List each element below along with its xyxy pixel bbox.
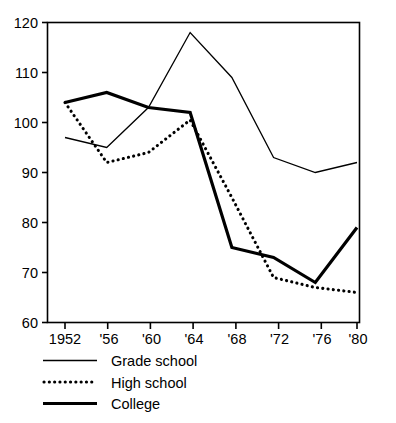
chart-legend: Grade school High school College <box>43 353 197 412</box>
x-tick-label: '56 <box>100 331 119 347</box>
series-line-grade-school <box>65 33 357 173</box>
y-tick-label: 110 <box>15 65 38 81</box>
x-tick-label: 1952 <box>49 331 81 347</box>
x-tick-label: '64 <box>185 331 204 347</box>
x-axis-ticks <box>65 323 357 330</box>
x-axis-tick-labels: 1952 '56 '60 '64 '68 '72 '76 '80 <box>49 331 368 347</box>
y-tick-label: 120 <box>14 15 38 31</box>
line-chart: 120 110 100 90 80 70 60 1952 '56 '60 '64… <box>0 0 396 423</box>
legend-item-college[interactable]: College <box>43 396 160 412</box>
legend-item-grade-school[interactable]: Grade school <box>43 353 197 369</box>
chart-page: 120 110 100 90 80 70 60 1952 '56 '60 '64… <box>0 0 396 423</box>
y-axis-ticks <box>42 23 48 323</box>
x-tick-label: '80 <box>349 331 368 347</box>
legend-label: College <box>111 396 160 412</box>
y-tick-label: 60 <box>22 315 38 331</box>
x-tick-label: '76 <box>313 331 332 347</box>
y-tick-label: 80 <box>22 215 38 231</box>
plot-area-border <box>48 23 360 323</box>
y-axis-tick-labels: 120 110 100 90 80 70 60 <box>14 15 38 331</box>
x-tick-label: '72 <box>270 331 289 347</box>
x-tick-label: '60 <box>142 331 161 347</box>
legend-label: High school <box>111 375 187 391</box>
legend-label: Grade school <box>111 353 197 369</box>
legend-item-high-school[interactable]: High school <box>44 375 187 391</box>
y-tick-label: 70 <box>22 265 38 281</box>
x-tick-label: '68 <box>228 331 247 347</box>
data-series-group <box>65 33 357 293</box>
series-line-college <box>65 93 357 283</box>
y-tick-label: 100 <box>14 115 38 131</box>
y-tick-label: 90 <box>22 165 38 181</box>
series-line-high-school <box>65 103 357 293</box>
